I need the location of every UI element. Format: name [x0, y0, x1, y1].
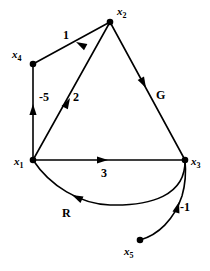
- arrowhead-x3-x1: [70, 192, 83, 203]
- arrowhead-x1-x3: [97, 156, 108, 163]
- edge-label-x2-x4: 1: [63, 28, 69, 42]
- arrowhead-x1-x4: [29, 104, 36, 115]
- node-label-x4-sub: 4: [18, 54, 22, 63]
- node-label-x1: x1: [13, 155, 24, 170]
- graph-diagram: x1 x2 x3 x4 x5 1 -5 2 G 3 R -1: [0, 0, 210, 271]
- edge-label-x1-x3: 3: [101, 166, 107, 180]
- edge-label-x5-x3: -1: [180, 200, 190, 214]
- node-label-x4: x4: [11, 48, 22, 63]
- edge-label-x2-x3: G: [156, 88, 165, 102]
- node-label-x5: x5: [123, 245, 134, 260]
- node-label-x1-sub: 1: [20, 161, 24, 170]
- edge-labels: 1 -5 2 G 3 R -1: [39, 28, 190, 220]
- node-label-x2: x2: [116, 5, 127, 20]
- edge-path-x5-x3: [140, 160, 186, 240]
- node-dot-x5[interactable]: [137, 237, 144, 244]
- node-label-x5-sub: 5: [130, 251, 134, 260]
- edge-label-x1-x4: -5: [39, 90, 49, 104]
- node-label-x3: x3: [190, 155, 201, 170]
- node-label-x2-sub: 2: [123, 11, 127, 20]
- graph-canvas: x1 x2 x3 x4 x5 1 -5 2 G 3 R -1: [0, 0, 210, 271]
- node-dot-x2[interactable]: [107, 19, 114, 26]
- node-dot-x1[interactable]: [30, 157, 37, 164]
- edge-path-x2-x3: [110, 22, 185, 160]
- edge-paths: [33, 22, 186, 240]
- node-labels: x1 x2 x3 x4 x5: [11, 5, 201, 260]
- node-dot-x3[interactable]: [182, 157, 189, 164]
- edge-path-x3-x1: [33, 160, 185, 205]
- edge-label-x3-x1: R: [62, 206, 71, 220]
- node-label-x3-sub: 3: [197, 161, 201, 170]
- edge-label-x1-x2: 2: [73, 90, 79, 104]
- node-dot-x4[interactable]: [30, 61, 37, 68]
- arrowhead-x2-x3: [138, 77, 150, 90]
